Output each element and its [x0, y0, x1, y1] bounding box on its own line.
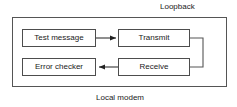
block-error-checker: Error checker — [22, 58, 96, 76]
block-transmit: Transmit — [118, 29, 190, 47]
loopback-caption: Loopback — [160, 3, 195, 11]
block-transmit-label: Transmit — [139, 34, 170, 42]
block-error-checker-label: Error checker — [35, 63, 83, 71]
diagram-canvas: Test message Transmit Error checker Rece… — [0, 0, 237, 107]
block-receive: Receive — [118, 58, 190, 76]
local-modem-caption: Local modem — [96, 94, 144, 102]
block-receive-label: Receive — [140, 63, 169, 71]
arrow-loopback-transmit-to-receive — [190, 38, 203, 67]
block-test-message-label: Test message — [34, 34, 83, 42]
connector-layer — [0, 0, 237, 107]
block-test-message: Test message — [22, 29, 96, 47]
